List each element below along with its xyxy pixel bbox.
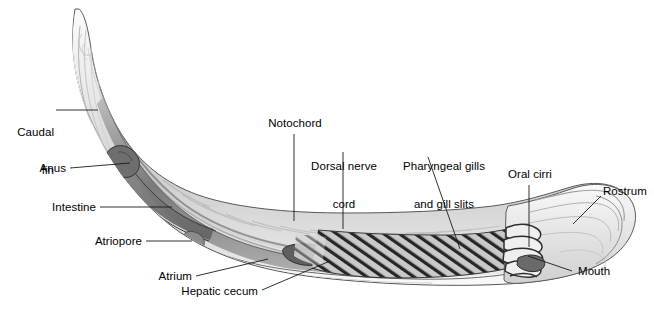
label-caudal-fin-line1: Caudal [2,126,54,139]
label-notochord: Notochord [256,117,334,130]
pharyngeal-gills [294,228,512,278]
mouth-opening [517,255,545,272]
label-dorsal-nerve-cord-line2: cord [305,198,383,211]
label-atriopore: Atriopore [2,235,142,248]
label-pharyngeal-gills: Pharyngeal gills and gill slits [390,135,498,235]
label-mouth: Mouth [578,265,628,278]
label-hepatic-cecum: Hepatic cecum [140,285,258,298]
label-rostrum: Rostrum [603,185,653,198]
label-caudal-fin: Caudal fin [2,101,54,201]
label-dorsal-nerve-cord: Dorsal nerve cord [305,135,383,235]
label-pharyngeal-gills-line2: and gill slits [390,198,498,211]
label-anus: Anus [2,162,66,175]
label-intestine: Intestine [2,201,96,214]
label-atrium: Atrium [100,270,192,283]
figure-canvas: Caudal fin Anus Intestine Atriopore Atri… [0,0,654,314]
label-pharyngeal-gills-line1: Pharyngeal gills [390,160,498,173]
label-oral-cirri: Oral cirri [494,168,566,181]
label-dorsal-nerve-cord-line1: Dorsal nerve [305,160,383,173]
